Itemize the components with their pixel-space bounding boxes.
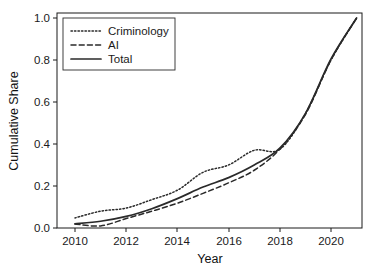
x-tick-label: 2018 [267,235,293,247]
x-tick-label: 2016 [216,235,242,247]
x-axis-title: Year [197,252,222,266]
y-tick-label: 0.4 [34,138,51,150]
x-axis-tick-labels: 2010 2012 2014 2016 2018 2020 [62,235,344,247]
y-tick-label: 0.0 [34,222,50,234]
y-tick-label: 0.2 [34,180,50,192]
x-tick-label: 2010 [62,235,88,247]
y-tick-label: 0.8 [34,54,50,66]
x-tick-label: 2014 [164,235,190,247]
x-tick-label: 2020 [318,235,344,247]
chart-legend: Criminology AI Total [63,18,175,70]
legend-label-criminology: Criminology [108,25,169,37]
y-axis-title: Cumulative Share [7,71,21,170]
y-tick-label: 1.0 [34,12,50,24]
chart-figure: 1.0 0.8 0.6 0.4 0.2 0.0 2010 [0,0,378,270]
x-tick-label: 2012 [113,235,139,247]
legend-label-total: Total [108,53,132,65]
y-tick-label: 0.6 [34,96,50,108]
x-axis-ticks [75,228,331,232]
legend-label-ai: AI [108,39,119,51]
y-axis-ticks [53,18,57,228]
y-axis-tick-labels: 1.0 0.8 0.6 0.4 0.2 0.0 [34,12,51,234]
cumulative-share-line-chart: 1.0 0.8 0.6 0.4 0.2 0.0 2010 [0,0,378,270]
